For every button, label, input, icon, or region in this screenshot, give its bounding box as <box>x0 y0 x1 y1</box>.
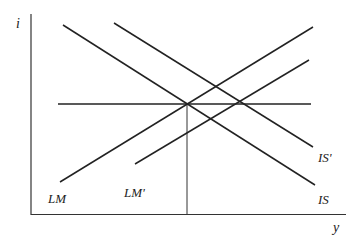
lm-prime-label: LM' <box>123 185 145 200</box>
lm-label: LM <box>47 191 67 206</box>
is-prime-curve <box>114 23 313 147</box>
x-axis-label: y <box>331 220 340 235</box>
is-prime-label: IS' <box>317 150 332 165</box>
y-axis-label: i <box>16 16 20 31</box>
lm-prime-curve <box>135 60 309 164</box>
is-lm-diagram: i y LM LM' IS' IS <box>0 0 361 240</box>
is-label: IS <box>317 192 329 207</box>
